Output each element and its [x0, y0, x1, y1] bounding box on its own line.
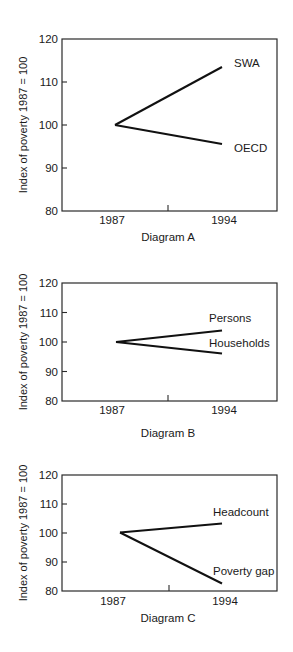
- ytick-label: 100: [39, 527, 58, 539]
- series-label-oecd: OECD: [234, 142, 267, 154]
- ytick-label: 100: [39, 119, 58, 131]
- ytick-label: 100: [39, 336, 58, 348]
- xtick-label-1994: 1994: [211, 404, 237, 416]
- xtick-label-1987: 1987: [99, 214, 125, 226]
- series-line-swa: [115, 67, 222, 125]
- ytick-label: 80: [45, 205, 58, 217]
- xtick-label-1994: 1994: [211, 214, 237, 226]
- ytick-label: 110: [40, 76, 58, 88]
- diagram-caption: Diagram A: [141, 231, 195, 243]
- xtick-label-1994: 1994: [212, 595, 238, 607]
- ytick-label: 80: [45, 395, 58, 407]
- xtick-label-1987: 1987: [99, 404, 125, 416]
- series-line-headcount: [120, 524, 222, 533]
- diagram-b: 120 110 100 90 80 1987 1994 Index of pov…: [17, 274, 277, 439]
- series-label-households: Households: [209, 337, 270, 349]
- ytick-label: 120: [39, 33, 58, 45]
- series-label-persons: Persons: [209, 312, 251, 324]
- y-axis-label: Index of poverty 1987 = 100: [17, 465, 29, 602]
- diagram-caption: Diagram B: [141, 427, 196, 439]
- y-axis-label: Index of poverty 1987 = 100: [17, 57, 29, 194]
- ytick-label: 110: [40, 498, 58, 510]
- series-line-persons: [116, 331, 222, 343]
- xtick-label-1987: 1987: [100, 595, 126, 607]
- ytick-label: 90: [45, 556, 58, 568]
- figure: 120 110 100 90 80 1987 1994 Index of pov…: [0, 0, 293, 652]
- series-line-households: [116, 342, 222, 354]
- diagram-c: 120 110 100 90 80 1987 1994 Index of pov…: [17, 465, 277, 624]
- ytick-label: 110: [40, 307, 58, 319]
- ytick-label: 80: [45, 585, 58, 597]
- ytick-label: 120: [39, 277, 58, 289]
- diagram-caption: Diagram C: [141, 612, 196, 624]
- series-label-swa: SWA: [234, 57, 260, 69]
- series-label-poverty-gap: Poverty gap: [213, 565, 274, 577]
- ytick-label: 120: [39, 469, 58, 481]
- series-label-headcount: Headcount: [213, 506, 269, 518]
- diagram-a: 120 110 100 90 80 1987 1994 Index of pov…: [17, 33, 277, 243]
- y-axis-label: Index of poverty 1987 = 100: [17, 274, 29, 411]
- series-line-poverty-gap: [120, 533, 222, 584]
- ytick-label: 90: [45, 162, 58, 174]
- series-line-oecd: [115, 125, 222, 144]
- ytick-label: 90: [45, 366, 58, 378]
